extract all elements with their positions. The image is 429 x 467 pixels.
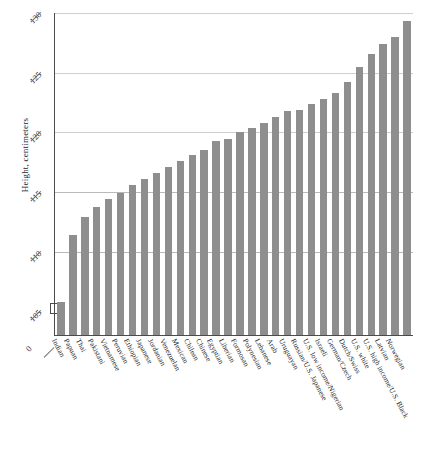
bar — [117, 193, 124, 335]
axis-break-connector — [50, 303, 51, 313]
bar — [248, 128, 255, 336]
bar — [308, 104, 315, 335]
bar — [356, 67, 363, 335]
y-tick-110: 110 — [8, 248, 43, 283]
bar — [129, 185, 136, 335]
bar — [272, 117, 279, 335]
y-tick-stem — [30, 191, 41, 202]
y-tick-130: 130 — [8, 9, 43, 44]
bar — [177, 161, 184, 335]
bar — [93, 207, 100, 335]
bar — [379, 44, 386, 335]
bar — [212, 141, 219, 335]
y-tick-stem — [30, 250, 41, 261]
bar — [57, 302, 64, 335]
bar-series — [55, 13, 413, 335]
bar — [141, 179, 148, 335]
bar — [320, 99, 327, 335]
zero-tick-stem — [44, 347, 55, 358]
bar — [296, 110, 303, 335]
bar — [153, 173, 160, 335]
y-tick-zero: 0 — [24, 343, 34, 353]
bar — [189, 155, 196, 335]
bar — [332, 93, 339, 335]
y-tick-stem — [30, 310, 41, 321]
y-tick-105: 105 — [8, 308, 43, 343]
bar — [69, 235, 76, 335]
bar — [260, 123, 267, 335]
y-tick-stem — [30, 72, 41, 83]
y-tick-stem — [30, 131, 41, 142]
bar — [284, 111, 291, 335]
bar — [105, 199, 112, 335]
bar — [200, 150, 207, 335]
y-tick-stem — [30, 12, 41, 23]
x-tick-labels: IndianPapuanThaiPakistaniVietnamesePeruv… — [55, 337, 429, 467]
bar — [165, 167, 172, 335]
bar — [224, 139, 231, 335]
bar — [368, 54, 375, 336]
bar — [344, 82, 351, 335]
bar — [391, 37, 398, 335]
x-axis-line — [54, 335, 413, 336]
bar — [236, 132, 243, 335]
bar — [403, 21, 410, 335]
bar — [81, 217, 88, 335]
chart-root: Height, centimeters 105110115120125130 0… — [0, 0, 429, 467]
